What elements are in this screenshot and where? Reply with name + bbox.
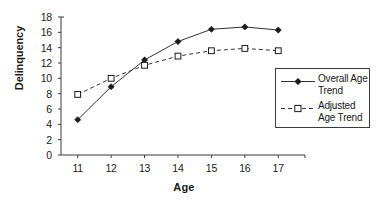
data-point-marker <box>242 24 248 30</box>
data-point-marker <box>175 38 181 44</box>
legend-label-overall-age-trend: Overall Age Trend <box>318 73 370 96</box>
legend-label-line1: Adjusted <box>318 100 355 111</box>
legend-item-adjusted-age-trend: Adjusted Age Trend <box>276 102 371 128</box>
legend: Overall Age Trend Adjusted Age Trend <box>275 68 370 128</box>
legend-label-line2: Age Trend <box>318 112 362 123</box>
axes-lines <box>58 17 305 158</box>
delinquency-by-age-chart: Delinquency 024681012141618 111213141516… <box>0 0 376 203</box>
legend-swatch-dashed-square <box>280 102 316 115</box>
data-point-marker <box>75 92 81 98</box>
legend-swatch-solid-diamond <box>280 75 316 88</box>
legend-label-line1: Overall Age <box>318 73 368 84</box>
data-point-marker <box>208 26 214 32</box>
legend-label-adjusted-age-trend: Adjusted Age Trend <box>318 100 370 123</box>
data-point-marker <box>175 53 181 59</box>
data-point-marker <box>275 48 281 54</box>
legend-label-line2: Trend <box>318 85 343 96</box>
data-point-marker <box>209 48 215 54</box>
data-point-marker <box>242 46 248 52</box>
data-point-marker <box>108 75 114 81</box>
data-point-marker <box>142 62 148 68</box>
series-lines <box>75 24 282 123</box>
legend-item-overall-age-trend: Overall Age Trend <box>276 75 371 101</box>
data-point-marker <box>275 27 281 33</box>
